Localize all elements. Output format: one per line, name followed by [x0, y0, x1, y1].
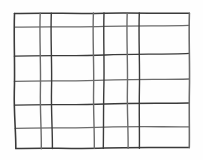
grid-line-vertical-v7 — [139, 13, 140, 148]
grid-drawing — [0, 0, 203, 160]
figure-canvas — [0, 0, 203, 160]
grid-line-vertical-v5 — [103, 13, 104, 148]
